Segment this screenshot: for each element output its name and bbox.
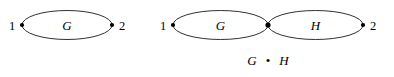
- edge-label-H-right-diagram: H: [310, 18, 321, 33]
- caption-series-composition: G • H: [247, 51, 289, 68]
- caption-right-operand-H: H: [278, 53, 289, 68]
- diagram-left-single-edge-G: 1 2 G: [9, 11, 125, 40]
- caption-operator-dot: •: [266, 53, 271, 68]
- edge-label-G-left-diagram: G: [62, 18, 72, 33]
- edge-label-G-right-diagram: G: [216, 18, 226, 33]
- vertex-dot-terminal-2-right-diagram: [361, 23, 365, 27]
- vertex-dot-terminal-1-left-diagram: [20, 23, 24, 27]
- caption-group: G • H: [247, 51, 289, 68]
- vertex-dot-middle-shared-right-diagram: [265, 22, 270, 27]
- figure-root: 1 2 G 1 2 G H: [0, 0, 394, 77]
- diagram-right-series-G-H: 1 2 G H: [160, 11, 376, 40]
- vertex-dot-terminal-1-right-diagram: [171, 23, 175, 27]
- terminal-label-1-left-diagram: 1: [9, 19, 15, 33]
- series-composition-figure: 1 2 G 1 2 G H: [0, 0, 394, 77]
- terminal-label-2-left-diagram: 2: [119, 19, 125, 33]
- caption-left-operand-G: G: [247, 53, 257, 68]
- vertex-dot-terminal-2-left-diagram: [110, 23, 114, 27]
- terminal-label-2-right-diagram: 2: [370, 19, 376, 33]
- terminal-label-1-right-diagram: 1: [160, 19, 166, 33]
